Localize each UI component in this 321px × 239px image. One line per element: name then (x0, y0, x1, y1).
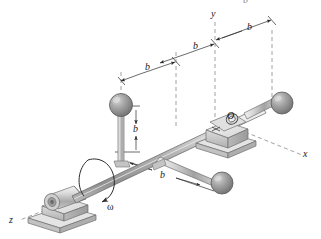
dim-line-middle-right (186, 44, 214, 54)
dimension-label-vertical: b (133, 124, 138, 134)
diagram-svg (0, 0, 321, 239)
origin-label: O (227, 111, 234, 121)
dimension-label-upper-right: b (247, 22, 252, 32)
sphere-lower (211, 172, 233, 194)
sphere-right (271, 92, 293, 114)
dim-tick-mid (172, 57, 180, 66)
dim-line-upper-right-back (216, 31, 242, 40)
rod-vertical-collar (114, 161, 130, 167)
dimension-label-left: b (145, 62, 150, 72)
y-axis-label: y (211, 9, 215, 19)
dimension-label-lower: b (160, 170, 165, 180)
rod-vertical (118, 110, 124, 163)
right-sphere-assembly (244, 92, 293, 119)
z-axis-label: z (9, 215, 13, 225)
dim-tick-left (118, 77, 125, 85)
x-axis-label: x (303, 149, 307, 159)
dimension-label-middle: b (193, 41, 198, 51)
dim-line-left-left (121, 74, 140, 81)
sphere-upper (110, 94, 133, 117)
figure-canvas: b y x z O ω b b b b b (0, 0, 321, 239)
upper-sphere-assembly (110, 94, 133, 168)
omega-label: ω (107, 202, 114, 212)
clipped-top-glyph: b (243, 0, 248, 5)
